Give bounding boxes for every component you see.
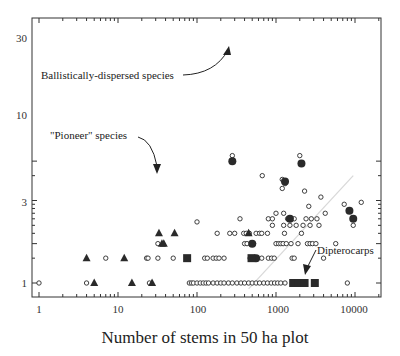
ballistic-point (345, 207, 353, 215)
annotation-ballistic: Ballistically-dispersed species (41, 69, 174, 81)
x-axis-label: Number of stems in 50 ha plot (102, 328, 309, 347)
open-circle-point (294, 223, 298, 227)
arrow-ballistic (183, 50, 228, 75)
scatter-chart: 1 10 100 1000 10000 1 3 10 30 Ballistica… (0, 0, 400, 356)
open-circle-point (279, 281, 283, 285)
open-circle-point (146, 256, 150, 260)
data-points (37, 153, 364, 287)
ballistic-point (228, 157, 236, 165)
ballistic-point (297, 160, 305, 168)
open-circle-point (351, 223, 355, 227)
open-circle-point (315, 217, 319, 221)
open-circle-point (238, 217, 242, 221)
open-circle-point (292, 256, 296, 260)
x-tick-100: 100 (190, 303, 207, 315)
open-circle-point (283, 281, 287, 285)
dipterocarp-point (301, 279, 309, 287)
open-circle-point (308, 223, 312, 227)
y-tick-3: 3 (22, 196, 28, 208)
pioneer-point (171, 229, 179, 237)
x-tick-1: 1 (36, 303, 42, 315)
pioneer-point (90, 279, 98, 287)
arrowhead-pioneer-icon (153, 164, 161, 174)
x-tick-1000: 1000 (267, 303, 290, 315)
open-circle-point (206, 281, 210, 285)
arrow-pioneer (138, 137, 157, 166)
open-circle-point (345, 281, 349, 285)
arrowhead-dipterocarps-icon (303, 264, 311, 275)
y-tick-1: 1 (22, 277, 28, 289)
y-tick-30: 30 (16, 32, 28, 44)
open-circle-point (281, 211, 285, 215)
open-circle-point (302, 189, 306, 193)
open-circle-point (342, 202, 346, 206)
annotation-dipterocarps: Dipterocarps (317, 244, 374, 256)
open-circle-point (281, 223, 285, 227)
x-tick-10: 10 (113, 303, 125, 315)
open-circle-point (323, 211, 327, 215)
open-circle-point (156, 256, 160, 260)
open-circle-point (284, 241, 288, 245)
open-circle-point (217, 256, 221, 260)
open-circle-point (359, 200, 363, 204)
arrowhead-ballistic-icon (223, 46, 231, 55)
open-circle-point (260, 256, 264, 260)
open-circle-point (309, 217, 313, 221)
x-tick-10000: 10000 (340, 303, 368, 315)
open-circle-point (230, 281, 234, 285)
open-circle-point (304, 217, 308, 221)
open-circle-point (270, 223, 274, 227)
open-circle-point (171, 256, 175, 260)
pioneer-point (128, 279, 136, 287)
open-circle-point (205, 256, 209, 260)
open-circle-point (307, 204, 311, 208)
y-tick-10: 10 (16, 109, 28, 121)
open-circle-point (321, 256, 325, 260)
open-circle-point (260, 173, 264, 177)
ballistic-point (281, 177, 289, 185)
open-circle-point (296, 241, 300, 245)
open-circle-point (317, 223, 321, 227)
open-circle-point (274, 211, 278, 215)
open-circle-point (280, 186, 284, 190)
open-circle-point (282, 231, 286, 235)
open-circle-point (222, 281, 226, 285)
open-circle-point (104, 256, 108, 260)
open-circle-point (265, 231, 269, 235)
ballistic-point (349, 215, 357, 223)
dipterocarp-point (311, 279, 319, 287)
dipterocarp-point (183, 254, 191, 262)
dipterocarp-point (248, 254, 256, 262)
open-circle-point (232, 231, 236, 235)
open-circle-point (84, 281, 88, 285)
open-circle-point (37, 281, 41, 285)
open-circle-point (215, 231, 219, 235)
ballistic-point (286, 215, 294, 223)
open-circle-point (299, 231, 303, 235)
open-circle-point (288, 223, 292, 227)
pioneer-point (155, 229, 163, 237)
open-circle-point (298, 153, 302, 157)
open-circle-point (195, 220, 199, 224)
open-circle-point (260, 231, 264, 235)
arrow-dipterocarps (308, 250, 316, 266)
annotation-pioneer: "Pioneer" species (50, 129, 127, 141)
pioneer-point (83, 254, 91, 262)
ballistic-point (248, 240, 256, 248)
open-circle-point (228, 231, 232, 235)
open-circle-point (272, 256, 276, 260)
pioneer-point (120, 254, 128, 262)
open-circle-point (270, 217, 274, 221)
open-circle-point (222, 256, 226, 260)
open-circle-point (319, 195, 323, 199)
open-circle-point (289, 241, 293, 245)
open-circle-point (301, 223, 305, 227)
